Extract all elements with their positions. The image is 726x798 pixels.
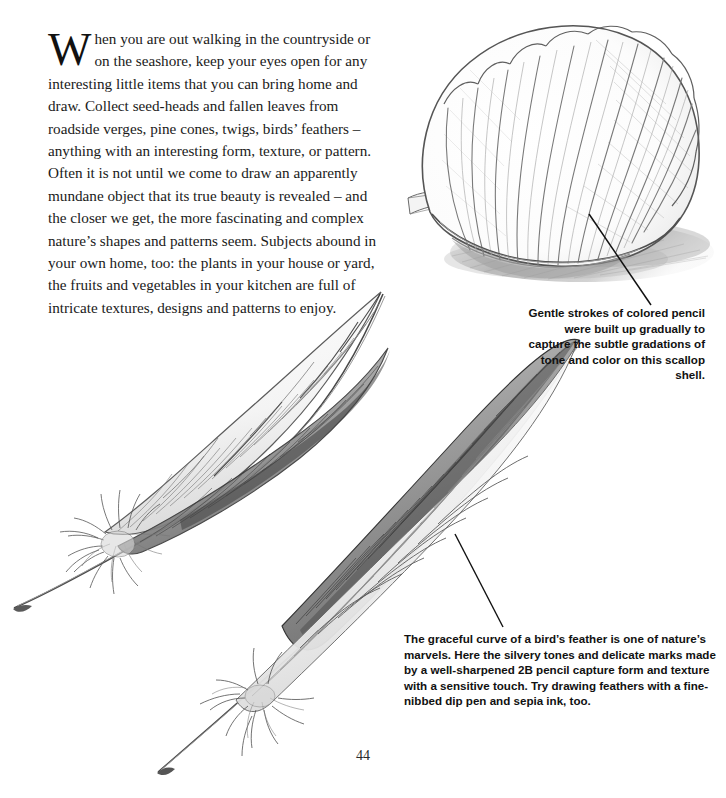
book-page: When you are out walking in the countrys… bbox=[0, 0, 726, 798]
upper-feather-illustration bbox=[13, 292, 390, 612]
body-paragraph-text: hen you are out walking in the countrysi… bbox=[48, 30, 376, 316]
feather-leader-line bbox=[455, 534, 503, 627]
caption-feather: The graceful curve of a bird’s feather i… bbox=[404, 631, 716, 709]
caption-shell: Gentle strokes of colored pencil were bu… bbox=[520, 305, 705, 383]
scallop-shell-illustration bbox=[408, 10, 714, 282]
shell-leader-line bbox=[589, 214, 651, 305]
lower-feather-illustration bbox=[157, 339, 580, 775]
body-paragraph: When you are out walking in the countrys… bbox=[48, 28, 381, 319]
page-number: 44 bbox=[0, 748, 726, 764]
drop-cap-letter: W bbox=[48, 28, 93, 70]
